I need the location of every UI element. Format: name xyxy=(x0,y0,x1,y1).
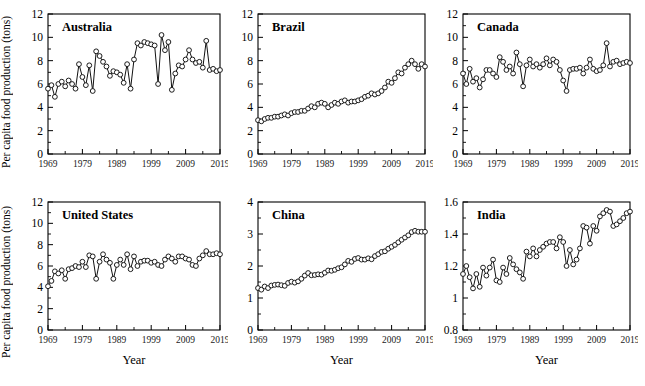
x-tick-label: 1999 xyxy=(349,159,368,169)
data-point xyxy=(477,284,482,289)
data-point xyxy=(108,260,113,265)
x-tick-label: 1979 xyxy=(282,159,301,169)
data-point xyxy=(187,257,192,262)
x-tick-label: 1989 xyxy=(107,335,126,345)
x-tick-label: 1999 xyxy=(142,159,161,169)
data-point xyxy=(531,246,536,251)
data-markers xyxy=(256,58,428,123)
y-tick-label: 6 xyxy=(247,78,253,90)
x-tick-label: 1989 xyxy=(315,159,334,169)
x-tick-label: 1989 xyxy=(520,159,539,169)
y-tick-label: 12 xyxy=(32,8,44,20)
data-point xyxy=(564,264,569,269)
x-tick-label: 1989 xyxy=(107,159,126,169)
x-tick-label: 2019 xyxy=(416,335,434,345)
y-tick-label: 2 xyxy=(247,260,253,272)
data-point xyxy=(49,279,54,284)
y-tick-label: 1.4 xyxy=(444,228,459,240)
data-point xyxy=(173,71,178,76)
data-point xyxy=(524,249,529,254)
data-point xyxy=(97,54,102,59)
data-markers xyxy=(46,33,223,100)
data-point xyxy=(393,76,398,81)
x-tick-label: 2019 xyxy=(416,159,434,169)
panel-title: India xyxy=(477,208,506,222)
data-point xyxy=(73,86,78,91)
data-point xyxy=(49,83,54,88)
x-axis-title: Year xyxy=(122,353,146,367)
data-point xyxy=(197,59,202,64)
y-tick-label: 2 xyxy=(37,303,43,315)
data-point xyxy=(501,59,506,64)
y-tick-label: 6 xyxy=(37,78,43,90)
data-point xyxy=(544,56,549,61)
data-point xyxy=(159,264,164,269)
panel-india: 0.811.21.41.6196919791989199920092019Ind… xyxy=(433,192,638,386)
data-point xyxy=(77,265,82,270)
data-point xyxy=(527,254,532,259)
y-tick-label: 8 xyxy=(37,55,43,67)
data-point xyxy=(63,276,68,281)
data-point xyxy=(114,263,119,268)
data-point xyxy=(166,40,171,45)
data-point xyxy=(101,59,106,64)
data-point xyxy=(567,248,572,253)
y-tick-label: 10 xyxy=(32,31,44,43)
panel-canada: 024681012196919791989199920092019Canada xyxy=(433,4,638,190)
data-point xyxy=(487,265,492,270)
data-point xyxy=(200,253,205,258)
x-tick-label: 1979 xyxy=(73,159,92,169)
data-point xyxy=(481,265,486,270)
data-point xyxy=(464,82,469,87)
data-point xyxy=(52,94,57,99)
panel-brazil: 024681012196919791989199920092019Brazil xyxy=(228,4,433,190)
data-point xyxy=(80,75,85,80)
x-tick-label: 2009 xyxy=(587,159,606,169)
data-point xyxy=(90,254,95,259)
data-point xyxy=(204,38,209,43)
data-point xyxy=(125,62,130,67)
x-tick-label: 1999 xyxy=(554,159,573,169)
data-point xyxy=(108,73,113,78)
data-point xyxy=(541,62,546,67)
figure-container: Per capita food production (tons) Per ca… xyxy=(0,0,645,386)
data-point xyxy=(169,87,174,92)
y-tick-label: 12 xyxy=(32,196,44,208)
data-point xyxy=(521,276,526,281)
y-tick-label: 8 xyxy=(247,55,253,67)
data-point xyxy=(128,86,133,91)
y-tick-label: 6 xyxy=(37,260,43,272)
data-point xyxy=(474,272,479,277)
data-point xyxy=(46,284,51,289)
x-tick-label: 2009 xyxy=(382,159,401,169)
x-tick-label: 2009 xyxy=(176,159,195,169)
x-axis-title: Year xyxy=(330,353,354,367)
x-tick-label: 2019 xyxy=(211,335,229,345)
y-tick-label: 1.2 xyxy=(444,260,459,272)
data-point xyxy=(561,240,566,245)
data-point xyxy=(524,63,529,68)
data-point xyxy=(173,259,178,264)
data-point xyxy=(461,272,466,277)
data-point xyxy=(588,57,593,62)
data-point xyxy=(557,235,562,240)
data-point xyxy=(187,48,192,53)
data-point xyxy=(111,276,116,281)
data-point xyxy=(194,264,199,269)
x-tick-label: 2009 xyxy=(176,335,195,345)
x-tick-label: 1979 xyxy=(487,159,506,169)
data-point xyxy=(183,57,188,62)
data-point xyxy=(564,89,569,94)
data-point xyxy=(598,68,603,73)
data-point xyxy=(128,267,133,272)
data-point xyxy=(132,254,137,259)
data-point xyxy=(59,79,64,84)
y-tick-label: 2 xyxy=(37,125,43,137)
data-point xyxy=(383,85,388,90)
y-tick-label: 2 xyxy=(452,125,458,137)
y-tick-label: 12 xyxy=(242,8,254,20)
x-tick-label: 1989 xyxy=(520,335,539,345)
data-point xyxy=(399,71,404,76)
data-markers xyxy=(46,249,223,289)
x-tick-label: 1999 xyxy=(349,335,368,345)
